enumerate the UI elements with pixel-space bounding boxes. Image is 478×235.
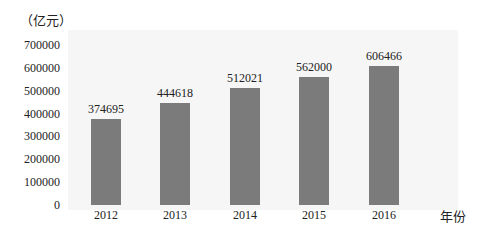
y-tick-label: 0: [0, 198, 60, 212]
bar-2015: [299, 77, 329, 205]
bar-value-label: 606466: [354, 49, 414, 63]
x-tick-label: 2016: [359, 208, 409, 223]
x-tick-label: 2013: [150, 208, 200, 223]
bar-value-label: 562000: [284, 60, 344, 74]
bar-value-label: 444618: [145, 86, 205, 100]
y-tick-label: 400000: [0, 107, 60, 121]
y-tick-label: 300000: [0, 129, 60, 143]
y-tick-label: 200000: [0, 152, 60, 166]
x-tick-label: 2015: [289, 208, 339, 223]
bar-value-label: 374695: [76, 102, 136, 116]
x-tick-label: 2012: [81, 208, 131, 223]
y-tick-label: 500000: [0, 84, 60, 98]
x-axis-title: 年份: [440, 206, 466, 225]
bar-value-label: 512021: [215, 71, 275, 85]
bar-2012: [91, 119, 121, 205]
bar-2014: [230, 88, 260, 205]
y-tick-label: 100000: [0, 175, 60, 189]
y-axis-unit: （亿元）: [20, 10, 72, 29]
y-tick-label: 600000: [0, 61, 60, 75]
y-tick-label: 700000: [0, 38, 60, 52]
x-tick-label: 2014: [220, 208, 270, 223]
bar-2013: [160, 103, 190, 205]
bar-2016: [369, 66, 399, 205]
